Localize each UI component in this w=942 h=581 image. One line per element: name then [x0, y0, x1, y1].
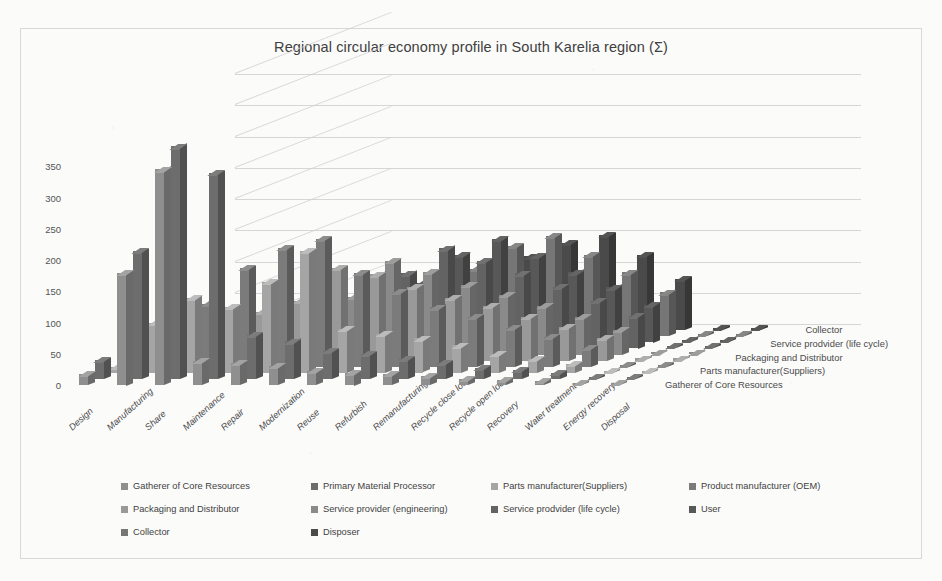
bar-front-face — [468, 317, 477, 367]
legend-swatch-icon — [121, 483, 128, 490]
legend-item[interactable]: User — [689, 504, 721, 514]
bar-front-face — [193, 361, 202, 385]
legend-label: Packaging and Distributor — [133, 504, 239, 514]
bar-10-2 — [490, 354, 499, 373]
bar-11-1 — [513, 370, 522, 379]
legend-swatch-icon — [689, 506, 696, 513]
bar-front-face — [399, 359, 408, 379]
bar-12-2 — [566, 364, 575, 373]
legend-swatch-icon — [121, 529, 128, 536]
bar-side-face — [669, 290, 676, 336]
bar-10-4 — [521, 317, 530, 361]
legend-label: Disposer — [323, 527, 360, 537]
bar-3-1 — [209, 173, 218, 379]
bar-3-0 — [193, 361, 202, 385]
bar-14-1 — [627, 377, 636, 379]
legend-item[interactable]: Primary Material Processor — [311, 481, 435, 491]
bar-front-face — [155, 169, 164, 385]
legend-swatch-icon — [689, 483, 696, 490]
bar-14-0 — [611, 383, 620, 385]
bar-13-6 — [667, 346, 676, 348]
bar-13-9 — [713, 328, 722, 330]
bar-2-1 — [171, 146, 180, 379]
bar-10-1 — [475, 368, 484, 379]
bar-front-face — [392, 292, 401, 367]
legend-item[interactable]: Packaging and Distributor — [121, 504, 239, 514]
bar-front-face — [95, 360, 104, 379]
bar-front-face — [675, 279, 684, 330]
chart-frame: Regional circular economy profile in Sou… — [20, 28, 922, 559]
bar-side-face — [685, 276, 692, 330]
bar-7-2 — [376, 334, 385, 373]
bar-front-face — [209, 173, 218, 379]
bar-7-3 — [392, 292, 401, 367]
bar-14-9 — [751, 328, 760, 330]
bar-9-3 — [468, 317, 477, 367]
bar-12-9 — [675, 279, 684, 330]
legend-item[interactable]: Product manufacturer (OEM) — [689, 481, 820, 491]
bar-side-face — [385, 331, 392, 372]
bar-front-face — [490, 354, 499, 373]
bar-4-2 — [262, 282, 271, 373]
bar-12-6 — [629, 316, 638, 349]
legend-item[interactable]: Disposer — [311, 527, 360, 537]
bar-5-1 — [285, 341, 294, 379]
bar-8-0 — [383, 374, 392, 385]
bar-front-face — [597, 338, 606, 361]
bar-front-face — [316, 239, 325, 367]
bar-6-2 — [338, 329, 347, 373]
legend-item[interactable]: Parts manufacturer(Suppliers) — [491, 481, 627, 491]
bar-front-face — [323, 351, 332, 379]
bar-side-face — [218, 170, 225, 379]
legend-item[interactable]: Service provider (engineering) — [311, 504, 448, 514]
bar-5-2 — [300, 251, 309, 373]
legend-item[interactable]: Gatherer of Core Resources — [121, 481, 250, 491]
bar-front-face — [430, 307, 439, 366]
bar-side-face — [347, 326, 354, 372]
z-axis-tick-label: Packaging and Distributor — [735, 352, 842, 363]
bar-front-face — [231, 363, 240, 385]
legend-label: Parts manufacturer(Suppliers) — [503, 481, 627, 491]
bar-11-3 — [544, 337, 553, 367]
bar-side-face — [423, 336, 430, 373]
bar-front-face — [171, 146, 180, 379]
bar-5-3 — [316, 239, 325, 367]
bar-side-face — [294, 339, 301, 379]
bar-side-face — [271, 279, 278, 372]
bar-5-0 — [269, 366, 278, 385]
legend-item[interactable]: Collector — [121, 527, 170, 537]
bar-side-face — [653, 302, 660, 342]
chart-legend: Gatherer of Core ResourcesPrimary Materi… — [21, 481, 921, 555]
bar-side-face — [477, 314, 484, 367]
legend-item[interactable]: Service prodvider (life cycle) — [491, 504, 620, 514]
legend-label: Primary Material Processor — [323, 481, 435, 491]
bar-11-0 — [497, 380, 506, 385]
bar-14-5 — [689, 352, 698, 354]
bar-6-1 — [323, 351, 332, 379]
bar-13-1 — [589, 377, 598, 379]
bar-4-1 — [247, 335, 256, 379]
legend-swatch-icon — [491, 506, 498, 513]
bar-front-face — [338, 329, 347, 373]
bar-4-0 — [231, 363, 240, 385]
bar-12-8 — [660, 292, 669, 336]
bar-12-4 — [597, 338, 606, 361]
z-axis-tick-label: Parts manufacturer(Suppliers) — [700, 365, 825, 376]
bar-9-1 — [437, 363, 446, 379]
legend-swatch-icon — [311, 483, 318, 490]
bar-front-face — [582, 348, 591, 367]
bar-13-5 — [651, 352, 660, 354]
bar-front-face — [247, 335, 256, 379]
bar-14-4 — [673, 358, 682, 360]
bar-12-7 — [644, 305, 653, 343]
bar-front-face — [285, 341, 294, 379]
chart-title: Regional circular economy profile in Sou… — [21, 39, 921, 55]
bar-front-face — [660, 292, 669, 336]
legend-label: Service provider (engineering) — [323, 504, 448, 514]
bar-13-8 — [698, 334, 707, 336]
bar-front-face — [644, 305, 653, 343]
bar-13-3 — [620, 365, 629, 367]
legend-label: Gatherer of Core Resources — [133, 481, 250, 491]
bar-front-face — [117, 273, 126, 386]
bar-front-face — [506, 328, 515, 367]
